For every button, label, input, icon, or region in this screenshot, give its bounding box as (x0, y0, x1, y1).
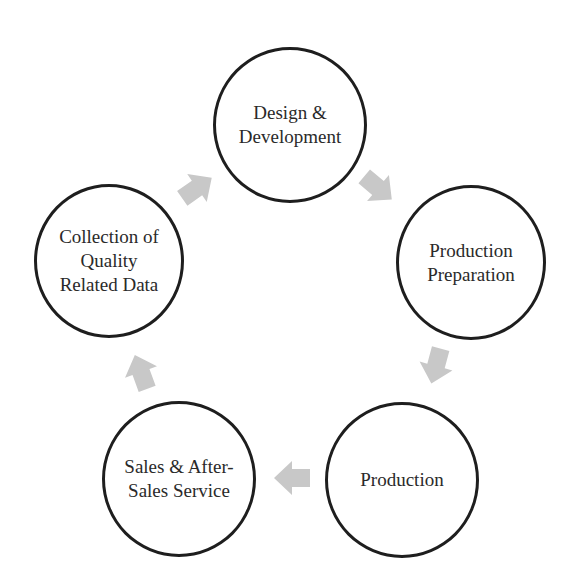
arrow-up-right-icon (169, 160, 225, 216)
node-label: Sales & After- Sales Service (124, 455, 233, 503)
arrow-down-right-icon (350, 160, 406, 216)
node-label: Production Preparation (427, 239, 515, 287)
node-label: Design & Development (239, 101, 341, 149)
node-sales-after-sales-service: Sales & After- Sales Service (102, 401, 256, 557)
quality-cycle-diagram: Design & Development Production Preparat… (0, 0, 575, 584)
node-production: Production (325, 402, 479, 558)
node-production-preparation: Production Preparation (396, 185, 546, 340)
arrow-up-left-icon (115, 346, 166, 397)
arrow-left-icon (272, 458, 312, 498)
node-label: Production (360, 468, 443, 492)
node-design-development: Design & Development (213, 47, 367, 203)
node-collection-quality-data: Collection of Quality Related Data (34, 184, 184, 338)
node-label: Collection of Quality Related Data (59, 225, 159, 297)
arrow-down-left-icon (412, 342, 461, 391)
